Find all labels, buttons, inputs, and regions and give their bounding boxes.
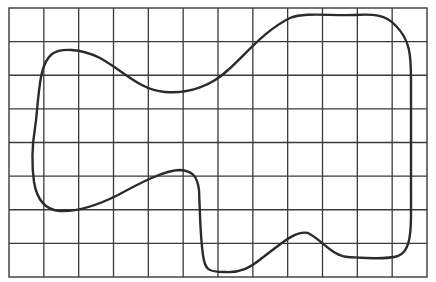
grid [9,8,427,277]
grid-figure [0,0,436,282]
closed-curve-shape [32,15,411,273]
